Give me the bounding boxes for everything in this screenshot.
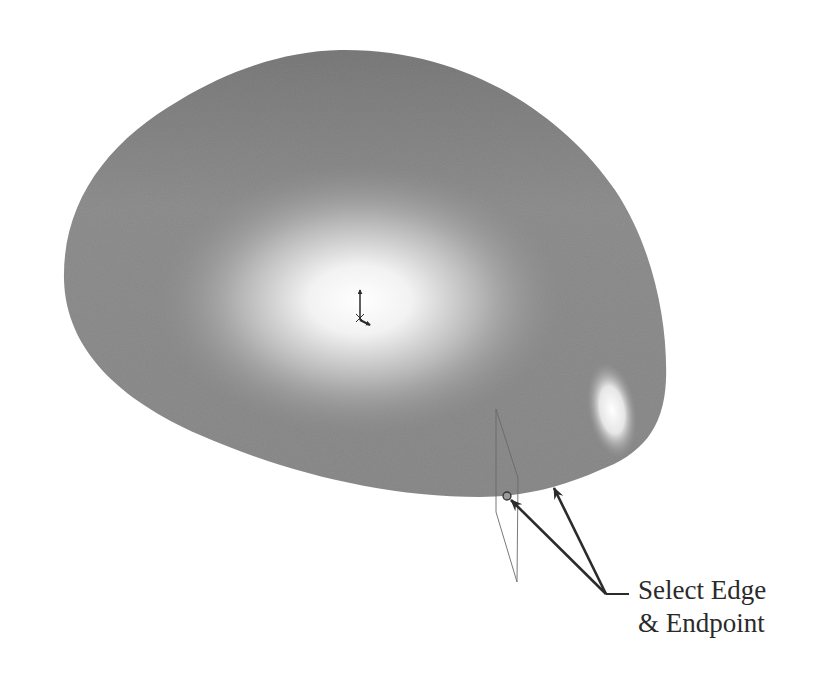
endpoint-circle-icon[interactable] xyxy=(503,492,511,500)
callout-line-2: & Endpoint xyxy=(638,607,766,640)
callout-line-1: Select Edge xyxy=(638,574,766,607)
callout-leader xyxy=(511,488,629,594)
figure-canvas: Select Edge & Endpoint xyxy=(0,0,828,693)
callout-label: Select Edge & Endpoint xyxy=(638,574,766,640)
dome-surface[interactable] xyxy=(50,40,690,510)
